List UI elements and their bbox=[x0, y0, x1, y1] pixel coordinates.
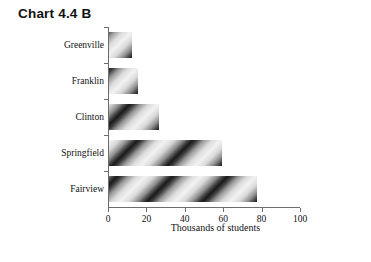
x-tick bbox=[108, 208, 109, 212]
x-tick bbox=[262, 208, 263, 212]
y-axis-label: Springfield bbox=[2, 148, 104, 158]
x-tick bbox=[300, 208, 301, 212]
y-tick bbox=[104, 27, 108, 28]
chart-title: Chart 4.4 B bbox=[18, 6, 91, 21]
x-axis-title-text: Thousands of students bbox=[171, 222, 260, 233]
y-axis-label: Greenville bbox=[2, 40, 104, 50]
y-tick bbox=[104, 171, 108, 172]
y-axis-label: Fairview bbox=[2, 184, 104, 194]
y-tick bbox=[104, 63, 108, 64]
y-axis-label: Franklin bbox=[2, 76, 104, 86]
x-tick bbox=[146, 208, 147, 212]
bar bbox=[109, 32, 132, 58]
bar bbox=[109, 140, 222, 166]
chart-container: Chart 4.4 B GreenvilleFranklinClintonSpr… bbox=[0, 0, 371, 262]
x-axis-title: Thousands of students bbox=[0, 222, 371, 233]
plot-area: GreenvilleFranklinClintonSpringfieldFair… bbox=[108, 27, 300, 207]
x-axis-line bbox=[108, 207, 300, 208]
y-tick bbox=[104, 135, 108, 136]
bar bbox=[109, 176, 257, 202]
y-tick bbox=[104, 99, 108, 100]
x-tick bbox=[185, 208, 186, 212]
x-tick bbox=[223, 208, 224, 212]
bar bbox=[109, 104, 159, 130]
bar bbox=[109, 68, 138, 94]
y-axis-label: Clinton bbox=[2, 112, 104, 122]
